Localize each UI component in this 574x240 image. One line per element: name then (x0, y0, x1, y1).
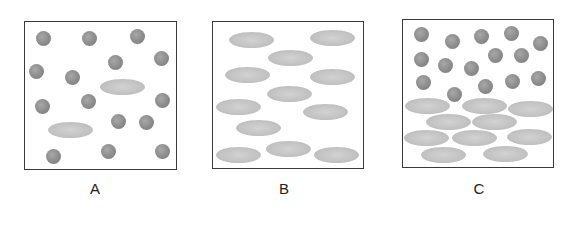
sphere-particle (108, 55, 123, 70)
ellipse-particle (405, 98, 450, 114)
ellipse-particle (452, 130, 497, 146)
ellipse-particle (483, 146, 528, 162)
sphere-particle (504, 26, 519, 41)
sphere-particle (46, 149, 61, 164)
ellipse-particle (236, 120, 281, 136)
sphere-particle (111, 114, 126, 129)
sphere-particle (514, 48, 529, 63)
ellipse-particle (314, 147, 359, 163)
sphere-particle (505, 74, 520, 89)
ellipse-particle (303, 104, 348, 120)
ellipse-particle (462, 98, 507, 114)
sphere-particle (533, 36, 548, 51)
ellipse-particle (225, 67, 270, 83)
sphere-particle (35, 99, 50, 114)
ellipse-particle (310, 69, 355, 85)
sphere-particle (29, 64, 44, 79)
sphere-particle (488, 48, 503, 63)
ellipse-particle (310, 30, 355, 46)
sphere-particle (414, 52, 429, 67)
sphere-particle (414, 27, 429, 42)
ellipse-particle (266, 141, 311, 157)
panel-c-label: C (474, 180, 485, 197)
ellipse-particle (229, 32, 274, 48)
ellipse-particle (507, 129, 552, 145)
ellipse-particle (267, 86, 312, 102)
panel-b-label: B (279, 180, 289, 197)
sphere-particle (478, 79, 493, 94)
panel-a-label: A (90, 180, 100, 197)
sphere-particle (101, 144, 116, 159)
sphere-particle (155, 144, 170, 159)
sphere-particle (531, 71, 546, 86)
ellipse-particle (216, 147, 261, 163)
ellipse-particle (268, 50, 313, 66)
sphere-particle (438, 58, 453, 73)
sphere-particle (464, 61, 479, 76)
ellipse-particle (508, 101, 553, 117)
sphere-particle (82, 31, 97, 46)
ellipse-particle (404, 130, 449, 146)
ellipse-particle (421, 147, 466, 163)
sphere-particle (447, 87, 462, 102)
sphere-particle (416, 75, 431, 90)
ellipse-particle (100, 79, 145, 95)
ellipse-particle (472, 114, 517, 130)
sphere-particle (36, 31, 51, 46)
sphere-particle (474, 29, 489, 44)
ellipse-particle (48, 122, 93, 138)
sphere-particle (154, 51, 169, 66)
sphere-particle (139, 115, 154, 130)
sphere-particle (445, 34, 460, 49)
sphere-particle (81, 94, 96, 109)
sphere-particle (155, 93, 170, 108)
sphere-particle (130, 29, 145, 44)
sphere-particle (65, 70, 80, 85)
ellipse-particle (426, 114, 471, 130)
ellipse-particle (216, 99, 261, 115)
